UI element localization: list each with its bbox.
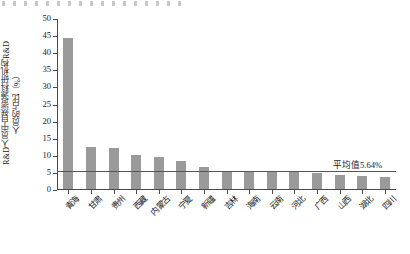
scan-noise-artifact [2, 1, 182, 6]
chart-figure: R&D人员中自然资源科研机构R&D 人员的占比（%） 0510152025303… [0, 0, 410, 254]
y-axis-tick-label: 15 [42, 133, 51, 143]
y-axis-tick-mark [53, 19, 57, 20]
y-axis-title-line-1: R&D人员中自然资源科研机构R&D [3, 18, 11, 188]
y-axis-tick-mark [53, 105, 57, 106]
y-axis-tick-label: 25 [42, 99, 51, 109]
y-axis-tick-mark [53, 156, 57, 157]
plot-area: 05101520253035404550 平均值5.64% [57, 19, 396, 190]
y-axis-tick-mark [53, 122, 57, 123]
y-axis-tick-mark [53, 139, 57, 140]
y-axis-tick-label: 30 [42, 81, 51, 91]
y-axis-tick-label: 0 [47, 184, 51, 194]
y-axis-tick-label: 35 [42, 64, 51, 74]
y-axis-tick-mark [53, 87, 57, 88]
y-axis-line [57, 19, 58, 190]
x-axis-tick-labels: 青海甘肃贵州西藏内蒙古宁夏新疆吉林海南云南河北广西山西湖北四川 [57, 192, 396, 252]
y-axis-tick-label: 10 [42, 150, 51, 160]
y-axis-title-line-2: 人员的占比（%） [14, 18, 22, 188]
mean-reference-line [57, 171, 396, 172]
bar [63, 38, 73, 189]
bar [86, 147, 96, 189]
y-axis-tick-mark [53, 70, 57, 71]
mean-line-label: 平均值5.64% [333, 158, 382, 170]
y-axis-title: R&D人员中自然资源科研机构R&D 人员的占比（%） [0, 18, 30, 188]
y-axis-tick-mark [53, 53, 57, 54]
y-axis-tick-label: 5 [47, 167, 51, 177]
y-axis-tick-label: 40 [42, 47, 51, 57]
y-axis-tick-mark [53, 36, 57, 37]
y-axis-tick-label: 20 [42, 116, 51, 126]
y-axis-tick-label: 45 [42, 30, 51, 40]
y-axis-tick-mark [53, 173, 57, 174]
y-axis-tick-label: 50 [42, 13, 51, 23]
y-axis-tick-mark [53, 190, 57, 191]
